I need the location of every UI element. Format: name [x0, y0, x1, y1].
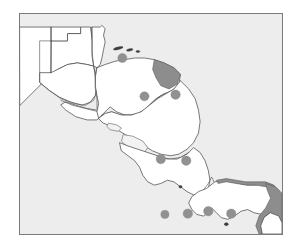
- site-marker: [226, 209, 235, 218]
- map-svg: [20, 14, 282, 234]
- site-marker: [140, 92, 149, 101]
- site-marker: [181, 156, 190, 165]
- site-marker: [118, 53, 127, 62]
- site-marker: [183, 209, 192, 218]
- map-figure: [0, 0, 300, 251]
- site-marker: [171, 90, 180, 99]
- site-marker: [161, 210, 169, 218]
- map-frame: [19, 13, 283, 235]
- site-marker: [156, 154, 165, 163]
- site-marker: [204, 206, 213, 215]
